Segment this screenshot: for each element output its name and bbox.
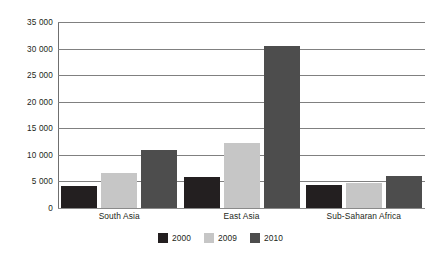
y-tick-label: 30 000 [1, 44, 53, 53]
bar [306, 185, 342, 208]
bar [101, 173, 137, 208]
x-axis-category-labels: South AsiaEast AsiaSub-Saharan Africa [58, 211, 425, 227]
bar [346, 183, 382, 209]
y-tick-label: 25 000 [1, 71, 53, 80]
y-tick-label: 10 000 [1, 150, 53, 159]
plot-area [58, 22, 425, 208]
legend-item-2000[interactable]: 2000 [158, 233, 191, 243]
bar [61, 186, 97, 208]
y-tick-label: 15 000 [1, 124, 53, 133]
chart-legend: 200020092010 [0, 233, 441, 243]
bars-layer [58, 22, 425, 208]
y-tick-label: 5 000 [1, 177, 53, 186]
gridline-0 [58, 208, 425, 209]
legend-swatch-icon [250, 233, 260, 243]
bar [264, 46, 300, 208]
legend-item-2009[interactable]: 2009 [204, 233, 237, 243]
bar [386, 176, 422, 208]
legend-label: 2010 [264, 233, 283, 243]
legend-label: 2009 [218, 233, 237, 243]
bar-chart: 05 00010 00015 00020 00025 00030 00035 0… [0, 0, 441, 264]
x-axis-label-2: Sub-Saharan Africa [327, 211, 401, 221]
x-axis-label-1: East Asia [224, 211, 260, 221]
bar [141, 150, 177, 208]
legend-item-2010[interactable]: 2010 [250, 233, 283, 243]
y-axis-tick-labels: 05 00010 00015 00020 00025 00030 00035 0… [0, 22, 53, 208]
legend-swatch-icon [204, 233, 214, 243]
y-tick-label: 20 000 [1, 97, 53, 106]
bar [224, 143, 260, 208]
x-axis-label-0: South Asia [99, 211, 140, 221]
bar [184, 177, 220, 208]
y-tick-label: 0 [1, 204, 53, 213]
legend-swatch-icon [158, 233, 168, 243]
legend-label: 2000 [172, 233, 191, 243]
y-tick-label: 35 000 [1, 18, 53, 27]
